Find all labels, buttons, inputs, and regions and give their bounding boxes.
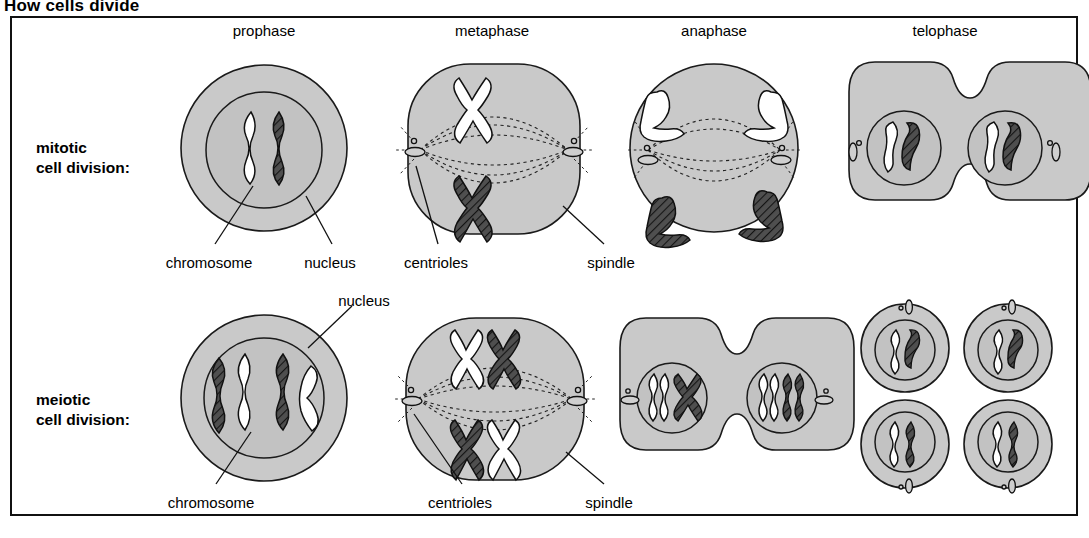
centriole-left (638, 156, 658, 165)
centriole-left (405, 148, 425, 157)
nucleus-right (747, 363, 817, 433)
figure-root: How cells divide prophase metaphase anap… (0, 0, 1089, 538)
centriole-right (563, 148, 583, 157)
cell-meiotic-anaphase (620, 318, 854, 450)
diagram-canvas (0, 0, 1089, 538)
daughter-cell-3 (861, 400, 949, 493)
centriole-right (815, 396, 833, 404)
cell-meiotic-metaphase (394, 318, 604, 484)
leader-spindle (563, 206, 604, 244)
leader-spindle (566, 452, 604, 484)
cell-meiotic-prophase (181, 306, 352, 484)
cell-mitotic-telophase (849, 62, 1089, 200)
centriole-right (567, 397, 587, 406)
cell-meiotic-telophase (861, 300, 1052, 493)
centriole-left (849, 143, 857, 161)
cell-mitotic-prophase (181, 65, 347, 244)
centriole-right (771, 156, 791, 165)
centriole-left (621, 396, 639, 404)
leader-nucleus (308, 306, 352, 348)
daughter-cell-2 (964, 300, 1052, 392)
cell-mitotic-metaphase (394, 64, 604, 244)
daughter-cell-4 (964, 400, 1052, 493)
centriole-right (1052, 143, 1060, 161)
daughter-cell-1 (861, 300, 949, 392)
cell-mitotic-anaphase (628, 64, 800, 248)
centriole-left (402, 397, 422, 406)
